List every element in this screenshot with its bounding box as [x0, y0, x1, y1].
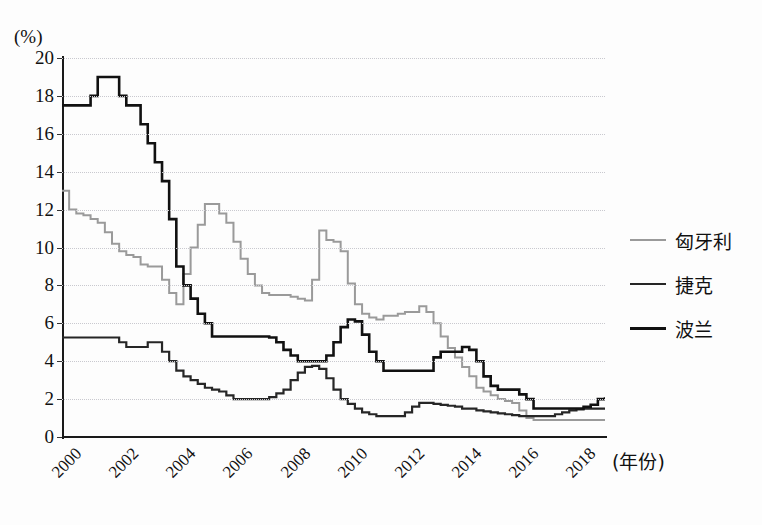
gridline: [62, 134, 605, 135]
y-tick-label: 18: [10, 86, 54, 105]
x-tick-label: 2012: [391, 444, 429, 482]
x-tick-label: 2004: [162, 444, 200, 482]
x-tick-label: 2000: [48, 444, 86, 482]
x-tick-label: 2018: [562, 444, 600, 482]
x-tick-label: 2010: [334, 444, 372, 482]
x-axis-title: (年份): [612, 447, 665, 474]
legend-item[interactable]: 波兰: [630, 306, 760, 350]
y-tick-label: 2: [10, 389, 54, 408]
y-tick-label: 4: [10, 351, 54, 370]
legend-item[interactable]: 捷克: [630, 262, 760, 306]
legend-item[interactable]: 匈牙利: [630, 218, 760, 262]
y-tick-label: 10: [10, 238, 54, 257]
y-tick-label: 16: [10, 124, 54, 143]
y-tick-mark: [57, 210, 62, 211]
gridline: [62, 248, 605, 249]
gridline: [62, 361, 605, 362]
y-tick-label: 12: [10, 200, 54, 219]
legend-label: 波兰: [675, 315, 713, 342]
gridline: [62, 285, 605, 286]
x-tick-label: 2006: [219, 444, 257, 482]
y-tick-mark: [57, 399, 62, 400]
gridline: [62, 58, 605, 59]
y-tick-mark: [57, 437, 62, 438]
legend-label: 匈牙利: [675, 227, 732, 254]
y-tick-label: 6: [10, 313, 54, 332]
y-tick-label: 0: [10, 427, 54, 446]
gridline: [62, 323, 605, 324]
y-tick-mark: [57, 134, 62, 135]
x-tick-label: 2016: [505, 444, 543, 482]
legend-label: 捷克: [675, 271, 713, 298]
y-tick-label: 20: [10, 48, 54, 67]
plot-area: [62, 58, 605, 437]
x-tick-label: 2002: [105, 444, 143, 482]
chart-figure: (%) 02468101214161820 200020022004200620…: [0, 0, 762, 525]
gridline: [62, 210, 605, 211]
legend-swatch-line-icon: [630, 327, 666, 330]
y-tick-mark: [57, 323, 62, 324]
y-tick-mark: [57, 361, 62, 362]
y-tick-mark: [57, 285, 62, 286]
y-tick-label: 14: [10, 162, 54, 181]
y-tick-mark: [57, 58, 62, 59]
gridline: [62, 399, 605, 400]
y-axis-unit-label: (%): [14, 26, 42, 48]
legend: 匈牙利捷克波兰: [630, 218, 760, 350]
y-tick-label: 8: [10, 275, 54, 294]
legend-swatch-line-icon: [630, 239, 666, 241]
x-tick-label: 2008: [277, 444, 315, 482]
y-tick-mark: [57, 96, 62, 97]
gridline: [62, 172, 605, 173]
y-tick-mark: [57, 248, 62, 249]
legend-swatch-line-icon: [630, 283, 666, 285]
gridline: [62, 96, 605, 97]
x-tick-label: 2014: [448, 444, 486, 482]
y-tick-mark: [57, 172, 62, 173]
